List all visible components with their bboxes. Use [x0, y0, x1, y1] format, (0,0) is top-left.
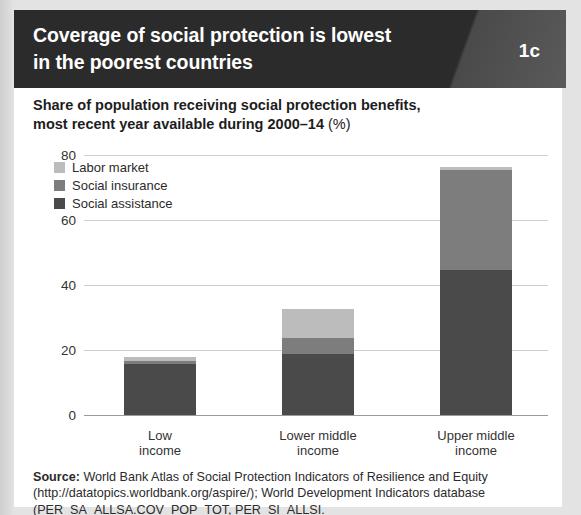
- page-background: Coverage of social protection is lowest …: [0, 0, 581, 515]
- bar-segment-labor-market: [124, 357, 196, 362]
- gridline-80: [84, 155, 548, 156]
- bar-segment-social-insurance: [124, 361, 196, 364]
- ytick-label-60: 60: [36, 214, 76, 227]
- xaxis-label-upper-middle-income: Upper middle income: [401, 428, 551, 458]
- xaxis-label-lower-middle-income-line1: Lower middle: [279, 428, 356, 443]
- bar-segment-social-assistance: [124, 364, 196, 415]
- ytick-label-20: 20: [36, 344, 76, 357]
- source-text: World Bank Atlas of Social Protection In…: [33, 470, 488, 515]
- figure-card: Coverage of social protection is lowest …: [14, 10, 562, 507]
- bar-segment-labor-market: [440, 167, 512, 170]
- axis-baseline-0: [84, 415, 548, 416]
- xaxis-label-low-income-line1: Low: [148, 428, 172, 443]
- xaxis-label-low-income: Low income: [85, 428, 235, 458]
- xaxis-label-upper-middle-income-line1: Upper middle: [437, 428, 514, 443]
- chart-legend: Labor market Social insurance Social ass…: [54, 160, 172, 214]
- source-note: Source: World Bank Atlas of Social Prote…: [33, 469, 553, 515]
- bar-segment-social-assistance: [282, 354, 354, 415]
- xaxis-label-low-income-line2: income: [139, 443, 181, 458]
- xaxis-label-upper-middle-income-line2: income: [455, 443, 497, 458]
- legend-item-labor-market: Labor market: [54, 160, 172, 175]
- bar-upper-middle-income: [440, 167, 512, 415]
- ytick-label-0: 0: [36, 409, 76, 422]
- source-label: Source:: [33, 470, 80, 484]
- bar-segment-labor-market: [282, 309, 354, 338]
- chart-plot-area: 80 60 40 20 0 Labor market Social insura…: [14, 10, 562, 507]
- xaxis-label-lower-middle-income-line2: income: [297, 443, 339, 458]
- legend-item-social-assistance: Social assistance: [54, 196, 172, 211]
- legend-label-social-insurance: Social insurance: [72, 179, 167, 192]
- bar-segment-social-insurance: [440, 170, 512, 270]
- xaxis-label-lower-middle-income: Lower middle income: [243, 428, 393, 458]
- legend-item-social-insurance: Social insurance: [54, 178, 172, 193]
- bar-segment-social-assistance: [440, 270, 512, 415]
- bar-lower-middle-income: [282, 309, 354, 415]
- bar-low-income: [124, 357, 196, 416]
- bar-segment-social-insurance: [282, 338, 354, 354]
- legend-label-labor-market: Labor market: [72, 161, 149, 174]
- legend-swatch-icon-social-assistance: [54, 198, 65, 209]
- legend-swatch-icon-social-insurance: [54, 180, 65, 191]
- legend-swatch-icon-labor-market: [54, 162, 65, 173]
- legend-label-social-assistance: Social assistance: [72, 197, 172, 210]
- ytick-label-40: 40: [36, 279, 76, 292]
